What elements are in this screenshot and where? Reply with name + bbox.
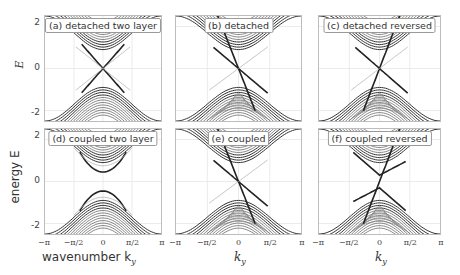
xtick-label: π/2 bbox=[404, 238, 417, 247]
panel-e: (e) coupled bbox=[175, 128, 302, 235]
x-label-right-sub: y bbox=[382, 257, 387, 266]
xtick-label: 0 bbox=[100, 238, 105, 247]
panel-label-e: (e) coupled bbox=[208, 131, 270, 146]
panel-d: (d) coupled two layer bbox=[44, 128, 162, 235]
xtick-label: −π bbox=[312, 238, 324, 247]
xtick-label: π/2 bbox=[126, 238, 139, 247]
panel-label-c: (c) detached reversed bbox=[323, 18, 436, 33]
y-axis-label-bottom: energy E bbox=[8, 150, 22, 203]
panel-c: (c) detached reversed bbox=[318, 15, 441, 122]
panel-f: (f) coupled reversed bbox=[318, 128, 441, 235]
ytick-top-0: 0 bbox=[28, 62, 40, 72]
x-axis-label-left: wavenumber ky bbox=[42, 250, 136, 266]
y-axis-label-top: E bbox=[13, 60, 26, 68]
ytick-bot-0: 0 bbox=[28, 175, 40, 185]
xtick-label: π bbox=[159, 238, 164, 247]
xtick-label: −π/2 bbox=[64, 238, 84, 247]
xtick-label: −π/2 bbox=[197, 238, 217, 247]
xtick-label: π bbox=[438, 238, 443, 247]
panel-b: (b) detached bbox=[175, 15, 302, 122]
xtick-label: π bbox=[299, 238, 304, 247]
xtick-label: −π bbox=[38, 238, 50, 247]
xtick-label: π/2 bbox=[264, 238, 277, 247]
panel-label-f: (f) coupled reversed bbox=[327, 131, 431, 146]
y-axis-label-text: energy E bbox=[8, 150, 22, 203]
panel-label-a: (a) detached two layer bbox=[45, 18, 161, 33]
x-label-text: wavenumber k bbox=[42, 250, 131, 264]
panel-label-b: (b) detached bbox=[204, 18, 273, 33]
xtick-label: −π/2 bbox=[339, 238, 359, 247]
ytick-bot-2: 2 bbox=[28, 130, 40, 140]
x-label-sub: y bbox=[131, 257, 136, 266]
xtick-label: −π bbox=[169, 238, 181, 247]
x-label-mid-sub: y bbox=[241, 257, 246, 266]
xtick-label: 0 bbox=[236, 238, 241, 247]
xtick-label: 0 bbox=[377, 238, 382, 247]
ytick-top-m2: -2 bbox=[28, 107, 40, 117]
panel-label-d: (d) coupled two layer bbox=[48, 131, 157, 146]
x-axis-label-right: ky bbox=[375, 250, 387, 266]
x-axis-label-mid: ky bbox=[234, 250, 246, 266]
panel-a: (a) detached two layer bbox=[44, 15, 162, 122]
ytick-top-2: 2 bbox=[28, 17, 40, 27]
ytick-bot-m2: -2 bbox=[28, 220, 40, 230]
